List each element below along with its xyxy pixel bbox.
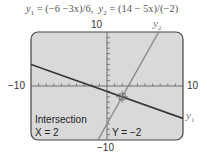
y2-curve-label: y2 xyxy=(153,17,161,32)
intersection-title: Intersection xyxy=(35,114,87,125)
y1-curve-label: y1 xyxy=(186,109,194,124)
y-readout: Y = −2 xyxy=(112,127,141,138)
x-min-label: −10 xyxy=(8,80,25,91)
y-max-label: 10 xyxy=(91,19,102,30)
x-readout: X = 2 xyxy=(35,127,59,138)
x-max-label: 10 xyxy=(187,80,198,91)
calculator-graph xyxy=(0,0,207,154)
y-min-label: −10 xyxy=(97,142,114,153)
